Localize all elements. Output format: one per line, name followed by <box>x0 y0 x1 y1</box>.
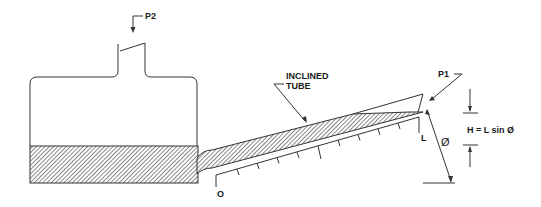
scale-length-label: L <box>421 133 427 143</box>
inclined-tube-liquid <box>197 112 423 174</box>
inclined-tube-outline <box>353 94 423 114</box>
p2-arrowhead <box>131 27 136 33</box>
angle-arrow-bottom <box>448 176 453 183</box>
reservoir-neck-cap <box>120 43 145 51</box>
angle-label: Ø <box>441 136 450 148</box>
p1-label: P1 <box>438 69 449 79</box>
reservoir-liquid <box>30 146 198 183</box>
scale-origin-label: O <box>217 189 224 199</box>
reservoir-outline <box>30 43 197 146</box>
height-formula: H = L sin Ø <box>467 125 514 135</box>
manometer-diagram: P2 O L INCLINED TUBE P1 Ø H = L sin Ø <box>0 0 541 207</box>
height-arrowhead-top <box>468 106 472 112</box>
angle-arrow-top <box>425 109 430 115</box>
inclined-tube-label-line1: INCLINED <box>286 71 329 81</box>
inclined-tube-label-line2: TUBE <box>286 81 311 91</box>
p2-leader <box>133 16 143 28</box>
inclined-tube-arrowhead <box>302 116 307 123</box>
height-arrowhead-bottom <box>468 146 472 152</box>
p2-label: P2 <box>145 11 156 21</box>
